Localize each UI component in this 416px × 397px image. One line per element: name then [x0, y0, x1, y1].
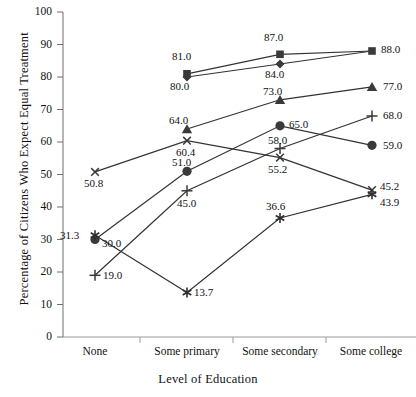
data-label-square-87: 87.0: [264, 31, 283, 43]
data-label-cross-50-8: 50.8: [84, 177, 103, 189]
data-label-circle-30: 30.0: [102, 237, 121, 249]
marker-star: [368, 189, 377, 199]
y-tick-label: 40: [22, 200, 52, 212]
data-label-square-88: 88.0: [381, 43, 400, 55]
plot-canvas: [0, 0, 416, 397]
data-label-star-31-3: 31.3: [60, 229, 79, 241]
x-tick-label-some-primary: Some primary: [139, 345, 235, 357]
x-tick-marks: [140, 337, 326, 343]
data-label-star-13-7: 13.7: [194, 286, 213, 298]
x-tick-label-some-college: Some college: [326, 345, 416, 357]
data-label-circle-65: 65.0: [289, 118, 308, 130]
marker-circle: [182, 167, 191, 176]
line-chart: Percentage of Citizens Who Expect Equal …: [0, 0, 416, 397]
data-label-circle-59: 59.0: [383, 139, 402, 151]
data-label-square-81: 81.0: [172, 50, 191, 62]
marker-star: [183, 288, 192, 298]
data-label-cross-55-2: 55.2: [268, 163, 287, 175]
marker-square: [368, 47, 376, 55]
series-circle-line: [95, 126, 372, 240]
marker-plus: [367, 111, 378, 122]
y-tick-label: 20: [22, 265, 52, 277]
marker-triangle: [367, 82, 377, 91]
data-label-plus-68: 68.0: [383, 109, 402, 121]
y-tick-label: 30: [22, 233, 52, 245]
data-label-plus-58: 58.0: [268, 134, 287, 146]
data-label-star-43-9: 43.9: [380, 196, 399, 208]
marker-cross: [91, 168, 99, 176]
data-label-diamond-84: 84.0: [265, 68, 284, 80]
marker-star-group: [91, 189, 377, 297]
y-tick-marks: [57, 12, 63, 337]
x-tick-label-none: None: [55, 345, 135, 357]
y-tick-label: 70: [22, 103, 52, 115]
axis-lines: [63, 12, 416, 337]
y-tick-label: 0: [22, 330, 52, 342]
marker-circle: [275, 121, 284, 130]
x-axis-title: Level of Education: [0, 372, 416, 387]
x-tick-label-some-secondary: Some secondary: [227, 345, 333, 357]
data-label-cross-45-2: 45.2: [380, 180, 399, 192]
data-label-star-36-6: 36.6: [266, 200, 285, 212]
y-tick-label: 90: [22, 38, 52, 50]
y-tick-label: 60: [22, 135, 52, 147]
marker-circle-group: [90, 121, 376, 244]
y-tick-label: 10: [22, 298, 52, 310]
y-tick-label: 50: [22, 168, 52, 180]
marker-cross-group: [91, 137, 376, 194]
y-tick-label: 100: [22, 5, 52, 17]
marker-star: [276, 213, 285, 223]
data-label-plus-19: 19.0: [103, 269, 122, 281]
data-label-triangle-64: 64.0: [169, 114, 188, 126]
marker-circle: [367, 141, 376, 150]
series-plus-line: [95, 116, 372, 275]
data-label-cross-60-4: 60.4: [176, 146, 195, 158]
data-label-plus-45: 45.0: [177, 197, 196, 209]
y-tick-label: 80: [22, 70, 52, 82]
data-label-triangle-77: 77.0: [383, 80, 402, 92]
marker-square: [276, 51, 284, 59]
data-label-triangle-73: 73.0: [263, 85, 282, 97]
data-label-diamond-80: 80.0: [170, 80, 189, 92]
